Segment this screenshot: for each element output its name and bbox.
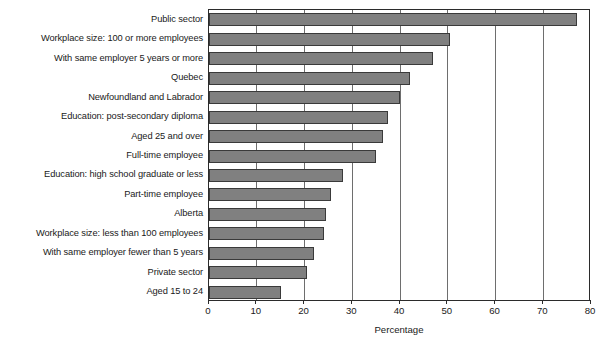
category-axis-labels: Public sectorWorkplace size: 100 or more… [0, 9, 203, 301]
category-label: With same employer fewer than 5 years [0, 247, 203, 257]
x-tick-label: 60 [489, 305, 500, 317]
x-tick-label: 80 [585, 305, 596, 317]
x-tick-label: 50 [441, 305, 452, 317]
category-label: Aged 25 and over [0, 131, 203, 141]
x-tick-mark [351, 300, 352, 304]
x-tick-mark [208, 300, 209, 304]
bar-chart: Public sectorWorkplace size: 100 or more… [0, 0, 615, 349]
category-label: Workplace size: less than 100 employees [0, 228, 203, 238]
bar [209, 111, 388, 124]
x-tick-label: 70 [537, 305, 548, 317]
x-tick-mark [542, 300, 543, 304]
bar [209, 150, 376, 163]
category-label: Workplace size: 100 or more employees [0, 33, 203, 43]
category-label: Newfoundland and Labrador [0, 92, 203, 102]
bar [209, 247, 314, 260]
category-label: Education: high school graduate or less [0, 169, 203, 179]
gridline [447, 10, 448, 300]
x-axis-title: Percentage [208, 324, 590, 335]
category-label: Full-time employee [0, 150, 203, 160]
gridline [495, 10, 496, 300]
x-tick-label: 40 [394, 305, 405, 317]
bar [209, 188, 331, 201]
x-tick-label: 10 [250, 305, 261, 317]
x-tick-mark [446, 300, 447, 304]
x-tick-mark [255, 300, 256, 304]
category-label: Alberta [0, 208, 203, 218]
category-label: Aged 15 to 24 [0, 286, 203, 296]
gridline [543, 10, 544, 300]
bar [209, 266, 307, 279]
category-label: Education: post-secondary diploma [0, 111, 203, 121]
bar [209, 72, 410, 85]
category-label: Quebec [0, 72, 203, 82]
bar [209, 227, 324, 240]
bar [209, 130, 383, 143]
x-tick-mark [303, 300, 304, 304]
bar [209, 286, 281, 299]
x-tick-mark [399, 300, 400, 304]
x-tick-label: 30 [346, 305, 357, 317]
x-tick-mark [590, 300, 591, 304]
x-axis-tick-labels: 01020304050607080 [208, 305, 590, 319]
category-label: Private sector [0, 267, 203, 277]
bar [209, 169, 343, 182]
category-label: With same employer 5 years or more [0, 53, 203, 63]
x-tick-mark [494, 300, 495, 304]
bar [209, 13, 577, 26]
bar [209, 52, 433, 65]
x-tick-label: 20 [298, 305, 309, 317]
category-label: Part-time employee [0, 189, 203, 199]
plot-area [208, 9, 590, 301]
bar [209, 91, 400, 104]
bar [209, 33, 450, 46]
category-label: Public sector [0, 14, 203, 24]
bar [209, 208, 326, 221]
x-tick-label: 0 [205, 305, 210, 317]
